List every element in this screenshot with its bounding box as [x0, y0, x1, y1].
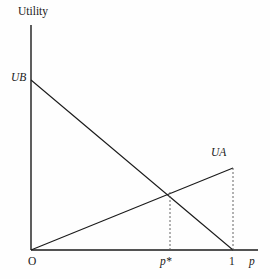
utility-plot [0, 0, 270, 279]
pstar-tick-label: p* [160, 256, 172, 268]
y-axis-label: Utility [18, 6, 48, 18]
ub-curve-label: UB [11, 72, 26, 84]
origin-label: O [28, 256, 36, 268]
ub-utility-line [31, 80, 233, 250]
one-tick-label: 1 [229, 256, 235, 268]
ua-utility-line [31, 168, 233, 250]
ua-curve-label: UA [211, 147, 226, 159]
figure-root: Utility p O UB UA p* 1 [0, 0, 270, 279]
x-axis-label: p [249, 256, 255, 268]
